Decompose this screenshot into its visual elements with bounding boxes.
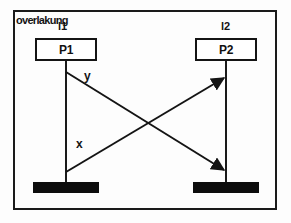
- diagram-screenshot: overlakung l1 l2 P1 P2 y x: [0, 0, 291, 223]
- message-label-x: x: [76, 138, 83, 150]
- lifeline-line-l2: [225, 61, 227, 187]
- lifeline-label-l2: l2: [221, 20, 230, 32]
- terminator-bar-l2: [193, 182, 259, 193]
- process-box-p1[interactable]: P1: [35, 38, 97, 61]
- lifeline-label-l1: l1: [58, 20, 67, 32]
- lifeline-line-l1: [65, 61, 67, 187]
- process-box-p2[interactable]: P2: [195, 38, 257, 61]
- terminator-bar-l1: [33, 182, 99, 193]
- message-label-y: y: [84, 70, 91, 82]
